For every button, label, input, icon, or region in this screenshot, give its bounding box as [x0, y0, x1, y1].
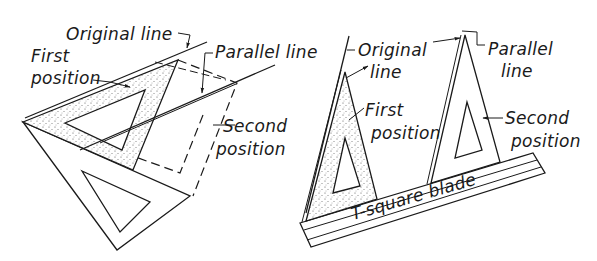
- label-second-2: position: [510, 131, 581, 151]
- original-line-arrow-right: [346, 66, 368, 78]
- label-second-position-2: position: [215, 139, 286, 159]
- parallel-lines-diagram: Original line First position Parallel li…: [0, 0, 597, 261]
- label-parallel-1: Parallel: [488, 39, 553, 59]
- label-original-2: line: [370, 62, 402, 82]
- label-first-position-1-right: First: [365, 100, 405, 120]
- label-second-position-1: Second: [223, 116, 287, 136]
- label-first-position-2-right: position: [370, 123, 441, 143]
- label-parallel-2: line: [501, 61, 533, 81]
- label-original-1: Original: [358, 40, 427, 60]
- left-panel: Original line First position Parallel li…: [23, 24, 318, 250]
- label-first-position-1: First: [31, 46, 71, 66]
- label-parallel-line: Parallel line: [215, 42, 318, 62]
- label-original-line: Original line: [66, 24, 173, 44]
- right-panel: Original line First position Parallel li…: [300, 31, 581, 247]
- label-first-position-2: position: [30, 68, 101, 88]
- label-second-1: Second: [505, 108, 569, 128]
- original-line-leader: [178, 33, 190, 48]
- guide-triangle: [23, 122, 190, 250]
- parallel-arrow-left: [433, 38, 460, 42]
- parallel-line: [80, 65, 275, 150]
